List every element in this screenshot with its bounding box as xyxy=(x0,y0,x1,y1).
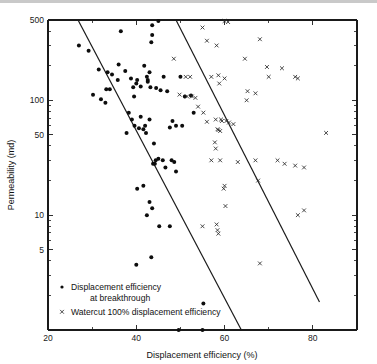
scatter-chart-figure: 20406080 50010050105 Displacement effici… xyxy=(0,0,377,364)
y-tick-label: 100 xyxy=(30,95,44,105)
data-point-dot xyxy=(149,40,153,44)
data-point-dot xyxy=(134,263,138,267)
data-point-dot xyxy=(110,72,114,76)
x-tick-label: 40 xyxy=(132,333,142,343)
data-point-dot xyxy=(137,126,141,130)
data-point-dot xyxy=(108,87,112,91)
data-point-dot xyxy=(152,142,156,146)
data-point-dot xyxy=(156,157,160,161)
data-point-dot xyxy=(99,97,103,101)
data-point-dot xyxy=(132,94,136,98)
data-point-dot xyxy=(116,78,120,82)
data-point-dot xyxy=(141,184,145,188)
data-point-dot xyxy=(150,23,154,27)
data-point-dot xyxy=(127,111,131,115)
data-point-dot xyxy=(165,89,169,93)
y-tick-label: 10 xyxy=(35,210,45,220)
data-point-dot xyxy=(87,49,91,53)
data-point-dot xyxy=(150,33,154,37)
data-point-dot xyxy=(170,119,174,123)
data-point-dot xyxy=(150,206,154,210)
data-point-dot xyxy=(148,85,152,89)
data-point-dot xyxy=(91,93,95,97)
data-point-dot xyxy=(103,101,107,105)
y-tick-label: 5 xyxy=(39,245,44,255)
data-point-dot xyxy=(177,328,181,332)
data-point-dot xyxy=(154,86,158,90)
data-point-dot xyxy=(139,115,143,119)
y-tick-label: 50 xyxy=(35,130,45,140)
data-point-dot xyxy=(192,111,196,115)
data-point-dot xyxy=(168,224,172,228)
data-point-dot xyxy=(162,75,166,79)
data-point-dot xyxy=(123,69,127,73)
data-point-dot xyxy=(170,158,174,162)
data-point-dot xyxy=(131,85,135,89)
data-point-dot xyxy=(134,82,138,86)
data-point-dot xyxy=(201,328,205,332)
data-point-dot xyxy=(201,302,205,306)
data-point-dot xyxy=(156,19,160,23)
x-tick-label: 80 xyxy=(308,333,318,343)
data-point-dot xyxy=(106,70,110,74)
data-point-dot xyxy=(133,124,137,128)
data-point-dot xyxy=(174,124,178,128)
data-point-dot xyxy=(125,131,129,135)
scan-artifact-band xyxy=(0,0,377,3)
data-point-dot xyxy=(145,213,149,217)
data-point-dot xyxy=(97,68,101,72)
data-point-dot xyxy=(178,75,182,79)
legend-label-breakthrough-line2: at breakthrough xyxy=(90,293,150,303)
data-point-dot xyxy=(144,131,148,135)
x-tick-label: 20 xyxy=(43,333,53,343)
data-point-dot xyxy=(148,70,152,74)
data-point-dot xyxy=(142,64,146,68)
data-point-dot xyxy=(104,87,108,91)
data-point-dot xyxy=(149,255,153,259)
data-point-dot xyxy=(163,165,167,169)
x-axis-title: Displacement efficiency (%) xyxy=(147,350,258,360)
data-point-dot xyxy=(153,162,157,166)
data-point-dot xyxy=(130,118,134,122)
data-point-dot xyxy=(129,76,133,80)
y-tick-label: 500 xyxy=(30,15,44,25)
data-point-dot xyxy=(168,125,172,129)
data-point-dot xyxy=(141,127,145,131)
data-point-dot xyxy=(117,62,121,66)
chart-canvas: 20406080 50010050105 Displacement effici… xyxy=(0,0,377,364)
data-point-dot xyxy=(148,118,152,122)
data-point-dot xyxy=(161,158,165,162)
y-axis-title: Permeability (md) xyxy=(6,140,16,211)
data-point-dot xyxy=(148,200,152,204)
data-point-dot xyxy=(139,84,143,88)
legend-label-breakthrough-line1: Displacement efficiency xyxy=(71,282,162,292)
x-tick-label: 60 xyxy=(220,333,230,343)
data-point-dot xyxy=(174,169,178,173)
data-point-dot xyxy=(146,80,150,84)
data-point-dot xyxy=(119,29,123,33)
legend-dot-marker-icon xyxy=(60,285,63,288)
data-point-dot xyxy=(159,88,163,92)
data-point-dot xyxy=(157,224,161,228)
data-point-dot xyxy=(77,43,81,47)
data-point-dot xyxy=(180,124,184,128)
data-point-dot xyxy=(135,187,139,191)
data-point-dot xyxy=(143,124,147,128)
data-point-dot xyxy=(135,78,139,82)
legend-label-watercut: Watercut 100% displacement efficiency xyxy=(71,307,221,317)
